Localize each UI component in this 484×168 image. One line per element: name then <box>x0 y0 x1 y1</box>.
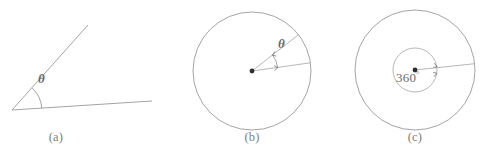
panel-a-caption: (a) <box>36 130 76 145</box>
panel-a-angle-label: θ <box>38 71 45 87</box>
panel-c-angle-label: 360° <box>396 70 420 86</box>
panel-a-upper-ray <box>12 25 88 110</box>
panel-b-caption: (b) <box>232 130 272 145</box>
panel-a-lower-ray <box>12 101 152 110</box>
panel-c-angle-value: 360 <box>396 70 416 85</box>
panel-b-angle-arc <box>273 55 278 68</box>
panel-c-arrowhead-upper <box>434 64 437 68</box>
panel-c-right-radius <box>415 64 475 70</box>
panel-b-angle-label: θ <box>278 36 285 52</box>
panel-b-group <box>193 12 311 130</box>
panel-a-group <box>12 25 152 110</box>
panel-a-angle-arc <box>32 88 42 108</box>
figure-container: θ θ 360° (a) (b) (c) <box>0 0 484 168</box>
panel-c-caption: (c) <box>395 130 435 145</box>
degree-icon: ° <box>416 70 419 79</box>
panel-b-center-dot <box>250 69 255 74</box>
